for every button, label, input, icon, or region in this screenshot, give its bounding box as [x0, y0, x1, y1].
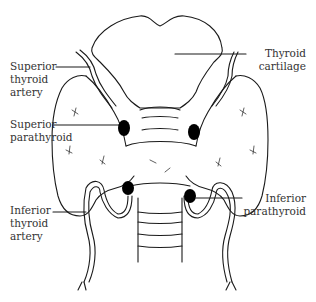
- label-inferior-parathyroid: Inferior parathyroid: [240, 192, 306, 218]
- left-thyroid-lobe: [52, 76, 134, 217]
- label-superior-parathyroid: Superior parathyroid: [10, 118, 73, 144]
- left-superior-parathyroid: [118, 120, 130, 136]
- anatomy-illustration: [0, 0, 316, 302]
- label-inferior-thyroid-artery: Inferior thyroid artery: [10, 204, 51, 243]
- right-superior-parathyroid: [188, 124, 200, 140]
- thyroid-cartilage-shape: [92, 16, 223, 108]
- label-superior-thyroid-artery: Superior thyroid artery: [10, 60, 57, 99]
- isthmus: [126, 142, 196, 147]
- parathyroid-glands: [118, 120, 200, 203]
- left-inferior-parathyroid: [122, 181, 134, 195]
- trachea: [138, 198, 182, 262]
- thyroid-diagram: Superior thyroid artery Thyroid cartilag…: [0, 0, 316, 302]
- left-inferior-thyroid-artery: [84, 181, 128, 282]
- label-thyroid-cartilage: Thyroid cartilage: [250, 47, 306, 73]
- right-inferior-parathyroid: [184, 189, 196, 203]
